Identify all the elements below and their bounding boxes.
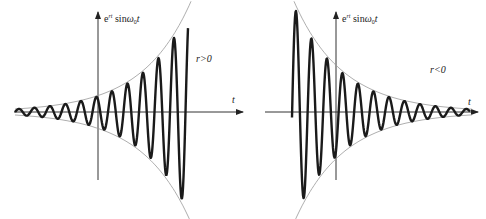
left-condition-label: r>0 [196, 53, 212, 64]
right-y-axis-label: ert sinω0t [342, 13, 378, 25]
left-envelope-upper [15, 1, 191, 109]
right-x-axis-label: t [468, 96, 471, 107]
left-plot: ert sinω0t t r>0 [14, 1, 243, 219]
right-envelope-upper [294, 1, 472, 109]
right-condition-label: r<0 [430, 64, 446, 75]
right-oscillation-curve [292, 11, 470, 198]
right-plot: ert sinω0t t r<0 [265, 1, 478, 219]
figure: ert sinω0t t r>0 ert sinω0t t r<0 [0, 0, 486, 219]
left-y-axis-label: ert sinω0t [104, 13, 140, 25]
left-x-axis-label: t [232, 94, 235, 105]
